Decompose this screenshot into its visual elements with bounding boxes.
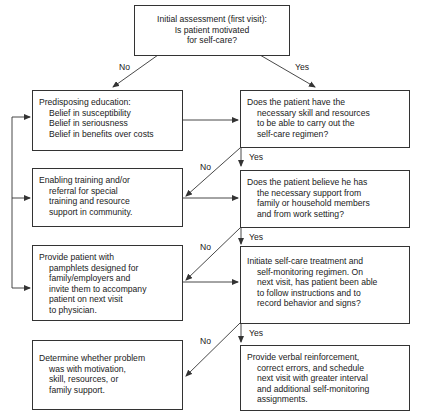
- node-text: the necessary support from: [247, 188, 403, 199]
- node-text: for self-care?: [141, 35, 283, 46]
- node-text: referral for special: [39, 186, 176, 197]
- node-text: Belief in benefits over costs: [39, 129, 176, 140]
- edge-label-start-no: No: [119, 62, 130, 72]
- node-text: and from work setting?: [247, 209, 403, 220]
- edge-label-support-yes: Yes: [249, 232, 263, 242]
- node-text: Belief in susceptibility: [39, 108, 176, 119]
- node-text: to follow instructions and to: [247, 288, 403, 299]
- node-text: invite them to accompany: [39, 284, 176, 295]
- node-text: self-care regimen?: [247, 129, 403, 140]
- node-text: Enabling training and/or: [39, 175, 176, 186]
- node-text: correct errors, and schedule: [247, 363, 403, 374]
- node-text: Does the patient have the: [247, 97, 403, 108]
- node-text: to physician.: [39, 305, 176, 316]
- edge-label-support-no: No: [200, 242, 211, 252]
- edge-label-initiate-yes: Yes: [249, 328, 263, 338]
- node-text: skill, resources, or: [39, 374, 176, 385]
- node-text: training and resource: [39, 196, 176, 207]
- node-text: Does the patient believe he has: [247, 177, 403, 188]
- node-text: Is patient motivated: [141, 25, 283, 36]
- node-text: family/employers and: [39, 273, 176, 284]
- edge-label-start-yes: Yes: [295, 62, 309, 72]
- node-text: family or household members: [247, 198, 403, 209]
- node-text: necessary skill and resources: [247, 108, 403, 119]
- node-enabling-training: Enabling training and/or referral for sp…: [32, 168, 183, 227]
- node-initiate-self-care: Initiate self-care treatment and self-mo…: [240, 246, 410, 324]
- node-text: next visit with greater interval: [247, 373, 403, 384]
- node-text: to be able to carry out the: [247, 118, 403, 129]
- node-text: and additional self-monitoring: [247, 384, 403, 395]
- node-text: next visit, has patient been able: [247, 277, 403, 288]
- node-provide-pamphlets: Provide patient with pamphlets designed …: [32, 245, 183, 321]
- node-text: Provide patient with: [39, 252, 176, 263]
- node-text: Initiate self-care treatment and: [247, 256, 403, 267]
- node-text: self-monitoring regimen. On: [247, 267, 403, 278]
- edge-label-skill-no: No: [200, 162, 211, 172]
- node-text: Provide verbal reinforcement,: [247, 352, 403, 363]
- node-text: support in community.: [39, 207, 176, 218]
- node-text: Determine whether problem: [39, 353, 176, 364]
- node-initial-assessment: Initial assessment (first visit): Is pat…: [134, 5, 290, 56]
- node-skill-question: Does the patient have the necessary skil…: [240, 90, 410, 148]
- node-text: was with motivation,: [39, 364, 176, 375]
- node-text: assignments.: [247, 394, 403, 405]
- node-text: Belief in seriousness: [39, 118, 176, 129]
- node-text: family support.: [39, 385, 176, 396]
- node-text: Predisposing education:: [39, 97, 176, 108]
- node-text: patient on next visit: [39, 294, 176, 305]
- node-text: pamphlets designed for: [39, 263, 176, 274]
- edge-label-skill-yes: Yes: [249, 152, 263, 162]
- edge-label-initiate-no: No: [200, 336, 211, 346]
- node-verbal-reinforcement: Provide verbal reinforcement, correct er…: [240, 345, 410, 411]
- node-determine-problem: Determine whether problem was with motiv…: [32, 340, 183, 410]
- node-text: record behavior and signs?: [247, 298, 403, 309]
- node-support-question: Does the patient believe he has the nece…: [240, 170, 410, 228]
- node-text: Initial assessment (first visit):: [141, 14, 283, 25]
- node-predisposing-education: Predisposing education: Belief in suscep…: [32, 90, 183, 151]
